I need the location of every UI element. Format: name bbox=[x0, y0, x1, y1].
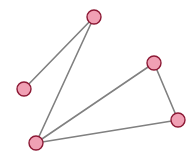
graph-node[interactable] bbox=[17, 82, 31, 96]
graph-edge[interactable] bbox=[154, 63, 178, 120]
graph-node[interactable] bbox=[87, 10, 101, 24]
edge-layer bbox=[24, 17, 178, 143]
graph-node[interactable] bbox=[147, 56, 161, 70]
graph-node[interactable] bbox=[29, 136, 43, 150]
graph-diagram bbox=[0, 0, 195, 155]
graph-node[interactable] bbox=[171, 113, 185, 127]
graph-svg-surface bbox=[0, 0, 195, 155]
graph-edge[interactable] bbox=[36, 120, 178, 143]
graph-edge[interactable] bbox=[24, 17, 94, 89]
